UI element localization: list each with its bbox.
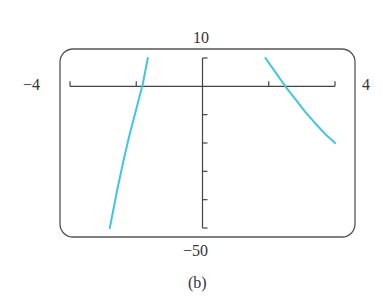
ymin-label: −50: [183, 243, 208, 259]
curve-left-branch: [110, 58, 148, 228]
ymax-label: 10: [193, 30, 209, 46]
xmin-label: −4: [23, 77, 40, 93]
plot-curves: [110, 58, 335, 228]
figure-caption: (b): [188, 274, 207, 292]
curve-right-branch: [265, 58, 335, 143]
graph-window: [0, 0, 383, 305]
axes: [70, 58, 335, 228]
xmax-label: 4: [362, 77, 370, 93]
